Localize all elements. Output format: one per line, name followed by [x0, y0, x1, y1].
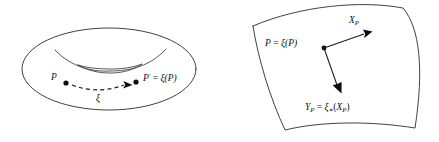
patch-point-argument: (P)	[285, 38, 297, 49]
point-p-prime-dot	[133, 79, 138, 84]
pushforward-close-paren: )	[346, 102, 349, 113]
surface-patch-diagram: XP P = ξ(P) YP = ξ∗(XP)	[253, 5, 420, 130]
vector-x-label: XP	[348, 15, 359, 26]
p-prime-argument: (P)	[165, 73, 177, 84]
pushforward-equals: =	[314, 102, 324, 112]
map-xi-label: ξ	[96, 93, 101, 104]
flow-path-dashed	[72, 85, 124, 90]
vector-x-subscript: P	[354, 19, 359, 26]
patch-point-equals: =	[271, 38, 281, 48]
torus-hole-upper-arc	[55, 49, 166, 71]
flow-arrow-head	[123, 81, 133, 88]
point-p-dot	[63, 80, 68, 85]
vector-y-line	[324, 48, 337, 85]
vector-x-line	[324, 34, 364, 48]
figure-canvas: P P′ = ξ(P) ξ XP	[0, 0, 439, 142]
p-prime-equals: =	[150, 73, 160, 83]
pushforward-label: YP = ξ∗(XP)	[305, 102, 350, 113]
differential-geometry-figure: P P′ = ξ(P) ξ XP	[0, 0, 439, 142]
patch-point-label: P = ξ(P)	[264, 38, 297, 49]
torus-diagram: P P′ = ξ(P) ξ	[22, 28, 196, 110]
point-p-prime-label: P′ = ξ(P)	[142, 72, 177, 84]
point-p-label: P	[50, 72, 57, 82]
vector-x-arrow-head	[363, 30, 373, 39]
